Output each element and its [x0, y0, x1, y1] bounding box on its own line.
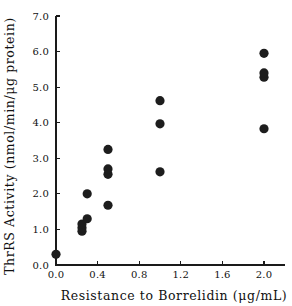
y-axis-title: ThrRS Activity (nmol/min/μg protein)	[2, 17, 17, 275]
data-point	[51, 250, 60, 259]
data-point	[155, 96, 164, 105]
data-point	[259, 124, 268, 133]
y-tick-label: 1.0	[32, 224, 49, 235]
scatter-plot-figure: 0.01.02.03.04.05.06.07.0 0.00.40.81.21.6…	[0, 0, 292, 306]
data-point	[155, 119, 164, 128]
x-tick-label: 2.0	[256, 269, 273, 280]
axis-spines	[56, 16, 285, 265]
data-point-group	[51, 49, 268, 259]
y-tick-label: 2.0	[32, 188, 49, 199]
y-tick-label: 0.0	[32, 260, 49, 271]
y-tick-label-group: 0.01.02.03.04.05.06.07.0	[32, 11, 49, 271]
data-point	[259, 68, 268, 77]
data-point	[103, 164, 112, 173]
x-tick-label: 0.0	[48, 269, 65, 280]
plot-canvas: 0.01.02.03.04.05.06.07.0 0.00.40.81.21.6…	[0, 0, 292, 306]
data-point	[83, 189, 92, 198]
y-tick-label: 6.0	[32, 46, 49, 57]
x-tick-label: 0.4	[89, 269, 106, 280]
x-axis-title: Resistance to Borrelidin (μg/mL)	[61, 288, 288, 303]
x-tick-label: 1.2	[173, 269, 190, 280]
data-point	[155, 167, 164, 176]
y-tick-label: 4.0	[32, 117, 49, 128]
data-point	[259, 49, 268, 58]
data-point	[83, 214, 92, 223]
x-tick-label: 0.8	[131, 269, 148, 280]
data-point	[103, 201, 112, 210]
y-tick-mark-group	[56, 16, 60, 265]
x-tick-label-group: 0.00.40.81.21.62.0	[48, 269, 273, 280]
y-tick-label: 5.0	[32, 82, 49, 93]
data-point	[103, 145, 112, 154]
y-tick-label: 3.0	[32, 153, 49, 164]
x-tick-label: 1.6	[214, 269, 231, 280]
x-tick-mark-group	[56, 261, 264, 265]
y-tick-label: 7.0	[32, 11, 49, 22]
